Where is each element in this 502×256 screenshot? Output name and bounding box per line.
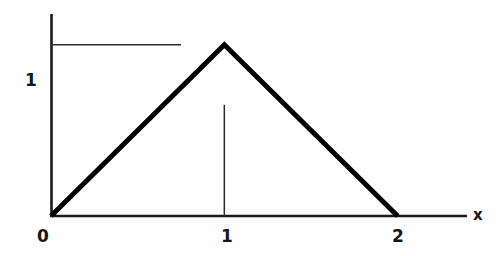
- x-tick-label-0: 0: [37, 228, 49, 245]
- y-tick-label-1: 1: [25, 72, 37, 89]
- figure-canvas: 1 0 1 2 x: [0, 0, 502, 256]
- x-tick-label-1: 1: [221, 228, 233, 245]
- x-tick-label-2: 2: [392, 228, 404, 245]
- plot-svg: [0, 0, 502, 256]
- x-axis-title: x: [473, 208, 483, 223]
